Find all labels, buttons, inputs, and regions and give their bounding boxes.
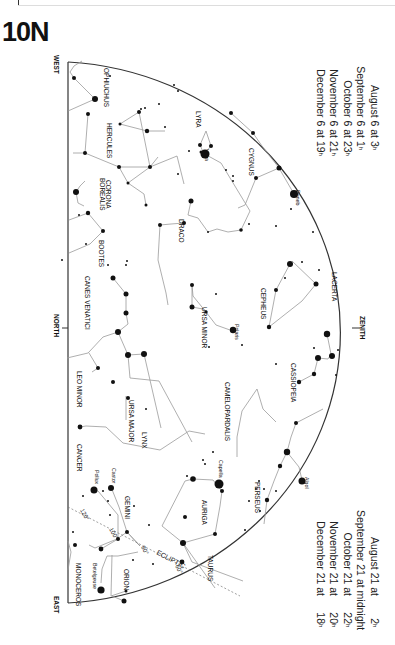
label-pollux: Pollux — [94, 470, 100, 484]
direction-west: WEST — [53, 55, 60, 74]
label-draco: DRACO — [178, 219, 185, 242]
label-bootes: BOOTES — [98, 240, 105, 267]
label-ursa-minor: URSA MINOR — [201, 307, 208, 348]
label-castor: Castor — [111, 468, 117, 483]
star-capella — [215, 480, 224, 489]
star-pollux — [91, 487, 98, 494]
label-borealis: BOREALIS — [99, 178, 106, 211]
label-cepheus: CEPHEUS — [260, 288, 267, 319]
label-lynx: LYNX — [141, 432, 148, 449]
label-perseus: PERSEUS — [254, 482, 261, 513]
label-orion: ORION — [123, 569, 130, 590]
label-auriga: AURIGA — [201, 500, 208, 525]
direction-north: NORTH — [53, 314, 60, 337]
label-vega: Vega — [204, 149, 210, 161]
label-hercules: HERCULES — [106, 123, 113, 158]
label-lyra: LYRA — [195, 111, 202, 128]
label-capella: Capella — [218, 460, 224, 478]
direction-east: EAST — [53, 596, 60, 613]
label-cancer: CANCER — [76, 444, 83, 471]
label-cygnus: CYGNUS — [248, 148, 255, 176]
label-leo-minor: LEO MINOR — [76, 371, 83, 407]
label-gemini: GEMINI — [124, 496, 131, 519]
label-canes-venatici: CANES VENATICI — [84, 276, 91, 330]
label-algol: Algol — [304, 477, 310, 489]
stars — [61, 75, 339, 604]
label-ophiuchus: OPHIUCHUS — [103, 68, 110, 107]
label-deneb: Deneb — [295, 190, 301, 205]
label-ursa-major: URSA MAJOR — [128, 400, 135, 442]
direction-zenith: ZENITH — [359, 316, 366, 339]
star-castor — [108, 485, 114, 491]
label-betelgeuse: Betelgeuse — [92, 563, 98, 589]
label-cassiopeia: CASSIOPEIA — [290, 363, 297, 402]
ecliptic-label: ECLIPTIC — [156, 549, 187, 570]
star-betelgeuse — [97, 586, 104, 593]
label-polaris: Polaris — [234, 324, 240, 340]
label-taurus: TAURUS — [207, 555, 214, 581]
label-corona: CORONA — [105, 180, 112, 209]
ecliptic-degree: 120° — [79, 508, 90, 522]
ecliptic-degree: 80° — [140, 545, 150, 556]
label-monoceros: MONOCEROS — [75, 563, 82, 606]
label-lacerta: LACERTA — [331, 272, 338, 301]
label-camelopardalis: CAMELOPARDALIS — [224, 382, 231, 441]
